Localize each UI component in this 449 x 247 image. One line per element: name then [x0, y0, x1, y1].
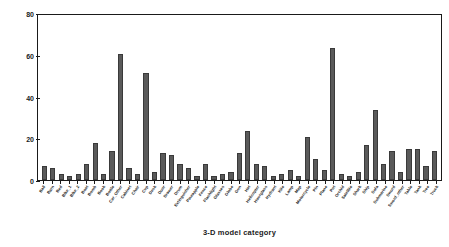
x-tick-cell: Bike_1	[65, 181, 74, 225]
x-tick-mark	[222, 181, 223, 184]
x-tick-cell: Gun	[235, 181, 244, 225]
bar	[84, 164, 89, 181]
y-tick-mark	[36, 56, 40, 57]
bar-cell	[328, 15, 336, 180]
bar-cell	[65, 15, 73, 180]
x-tick-mark	[316, 181, 317, 184]
bar-cell	[295, 15, 303, 180]
bar-cell	[244, 15, 252, 180]
y-tick-mark	[36, 139, 40, 140]
bar	[406, 149, 411, 180]
x-tick-mark	[171, 181, 172, 184]
x-tick-cell: Kite	[278, 181, 287, 225]
bar-cell	[278, 15, 286, 180]
x-tick-mark	[154, 181, 155, 184]
bar	[262, 166, 267, 180]
x-tick-cell: Hourglass	[261, 181, 270, 225]
bar	[432, 151, 437, 180]
bar-cell	[193, 15, 201, 180]
x-tick-cell: Hydrant	[269, 181, 278, 225]
bar	[109, 151, 114, 180]
plot-area	[37, 14, 442, 181]
bar-cell	[312, 15, 320, 180]
x-tick-cell: Pineapple	[193, 181, 202, 225]
bar-cell	[413, 15, 421, 180]
x-tick-mark	[146, 181, 147, 184]
x-tick-cell: Ship	[363, 181, 372, 225]
bar	[67, 176, 72, 180]
bar	[330, 48, 335, 180]
bar	[279, 174, 284, 180]
x-tick-cell: Pot	[329, 181, 338, 225]
bar-cell	[345, 15, 353, 180]
bar-cell	[150, 15, 158, 180]
x-tick-mark	[257, 181, 258, 184]
bar	[288, 170, 293, 180]
x-tick-cell: Satellite	[346, 181, 355, 225]
x-tick-mark	[333, 181, 334, 184]
x-tick-cell: Tank	[414, 181, 423, 225]
bar	[135, 174, 140, 180]
x-tick-cell: Ball	[39, 181, 48, 225]
x-tick-cell: Bomb	[90, 181, 99, 225]
x-tick-mark	[188, 181, 189, 184]
bar-cell	[252, 15, 260, 180]
bar	[339, 174, 344, 180]
bar-cell	[286, 15, 294, 180]
x-tick-mark	[427, 181, 428, 184]
bar	[237, 153, 242, 180]
bar-cell	[337, 15, 345, 180]
bar-cell	[379, 15, 387, 180]
x-tick-mark	[239, 181, 240, 184]
x-axis-title: 3-D model category	[37, 228, 442, 237]
bar	[177, 164, 182, 181]
y-tick-label: 40	[8, 94, 34, 101]
x-tick-cell: Car_Other	[116, 181, 125, 225]
x-tick-mark	[120, 181, 121, 184]
bar-cell	[261, 15, 269, 180]
bar	[271, 176, 276, 180]
bar-cell	[371, 15, 379, 180]
bar	[322, 170, 327, 180]
x-tick-mark	[274, 181, 275, 184]
bar	[169, 155, 174, 180]
bar-cell	[362, 15, 370, 180]
x-tick-cell: Glasses	[218, 181, 227, 225]
chart-figure: # Models 020406080 BallBarnBedBike_1Bike…	[0, 0, 449, 247]
bar-cell	[303, 15, 311, 180]
x-tick-cell: Tree	[423, 181, 432, 225]
bar-cell	[142, 15, 150, 180]
bar-cell	[354, 15, 362, 180]
bar	[415, 149, 420, 180]
bar	[228, 172, 233, 180]
bar-cell	[269, 15, 277, 180]
x-tick-mark	[299, 181, 300, 184]
x-tick-label: Table	[404, 185, 413, 196]
x-tick-mark	[367, 181, 368, 184]
bar	[101, 174, 106, 180]
bar	[76, 174, 81, 180]
x-tick-cell: Table	[406, 181, 415, 225]
x-tick-cell: Orchid	[338, 181, 347, 225]
x-tick-cell: Globe	[227, 181, 236, 225]
x-tick-cell: Sword_other	[397, 181, 406, 225]
bar	[364, 145, 369, 180]
x-tick-mark	[350, 181, 351, 184]
x-tick-mark	[359, 181, 360, 184]
x-tick-mark	[205, 181, 206, 184]
x-tick-label: Plane	[319, 185, 329, 196]
x-tick-mark	[214, 181, 215, 184]
bar	[389, 151, 394, 180]
bar	[373, 110, 378, 180]
bar	[186, 168, 191, 180]
bar-cell	[99, 15, 107, 180]
x-tick-label: Chair	[131, 185, 140, 196]
bar-cell	[159, 15, 167, 180]
bar-cell	[218, 15, 226, 180]
bar	[211, 176, 216, 180]
x-tick-mark	[410, 181, 411, 184]
bar-cell	[82, 15, 90, 180]
bar-cell	[116, 15, 124, 180]
x-tick-cell: Plane	[321, 181, 330, 225]
bar-cell	[40, 15, 48, 180]
